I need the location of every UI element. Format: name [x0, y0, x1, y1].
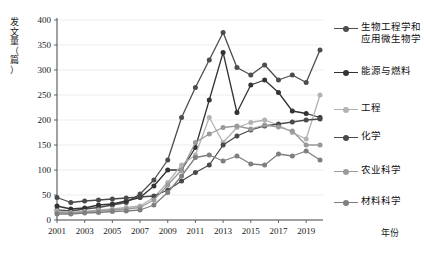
data-point — [234, 65, 239, 70]
data-point — [290, 154, 295, 159]
data-point — [248, 127, 253, 132]
data-point — [262, 63, 267, 68]
data-point — [290, 129, 295, 134]
data-point — [179, 115, 184, 120]
data-point — [207, 153, 212, 158]
data-point — [55, 195, 60, 200]
data-point — [304, 149, 309, 154]
data-point — [248, 83, 253, 88]
data-point — [290, 120, 295, 125]
y-axis-tick-label: 150 — [38, 140, 52, 150]
data-point — [304, 80, 309, 85]
data-point — [138, 195, 143, 200]
data-point — [276, 125, 281, 130]
x-axis-title: 年份 — [381, 229, 399, 239]
data-point — [276, 152, 281, 157]
x-axis-tick-label: 2019 — [297, 226, 316, 236]
y-axis-title: 发 文 量 （ 篇 ） — [8, 18, 20, 75]
legend-marker-icon — [334, 133, 358, 142]
legend-chemistry[interactable]: 化学 — [334, 131, 381, 143]
data-point — [262, 78, 267, 83]
data-point — [96, 210, 101, 215]
x-axis-tick-label: 2003 — [76, 226, 95, 236]
data-point — [318, 158, 323, 163]
data-point — [165, 168, 170, 173]
data-point — [124, 196, 129, 201]
y-axis-tick-label: 100 — [38, 165, 52, 175]
x-axis-tick-label: 2011 — [187, 226, 205, 236]
data-point — [248, 73, 253, 78]
data-point — [207, 163, 212, 168]
data-point — [234, 134, 239, 139]
y-axis-tick-label: 250 — [38, 90, 52, 100]
data-point — [262, 118, 267, 123]
data-point — [165, 183, 170, 188]
legend-label: 工程 — [361, 103, 381, 115]
y-axis-tick-label: 350 — [38, 40, 52, 50]
data-point — [110, 197, 115, 202]
data-point — [165, 158, 170, 163]
data-point — [221, 30, 226, 35]
data-point — [290, 73, 295, 78]
x-axis-tick-label: 2013 — [214, 226, 233, 236]
data-point — [179, 174, 184, 179]
data-point — [234, 154, 239, 159]
data-point — [110, 202, 115, 207]
legend-engineering[interactable]: 工程 — [334, 103, 381, 115]
data-point — [276, 90, 281, 95]
data-point — [290, 109, 295, 114]
data-point — [207, 115, 212, 120]
legend-energy-fuel[interactable]: 能源与燃料 — [334, 66, 411, 78]
data-point — [82, 211, 87, 216]
data-point — [221, 50, 226, 55]
legend-materials[interactable]: 材料科学 — [334, 196, 401, 208]
data-point — [262, 163, 267, 168]
legend-label: 能源与燃料 — [361, 66, 411, 78]
legend-marker-icon — [334, 68, 358, 77]
x-axis-tick-label: 2017 — [269, 226, 288, 236]
y-axis-tick-label: 0 — [47, 215, 52, 225]
y-axis-tick-label: 200 — [38, 115, 52, 125]
y-axis-tick-label: 300 — [38, 65, 52, 75]
data-point — [207, 132, 212, 137]
data-point — [110, 209, 115, 214]
legend-marker-icon — [334, 198, 358, 207]
x-axis-tick-label: 2005 — [103, 226, 122, 236]
publication-trend-chart: 发 文 量 （ 篇 ） 年份 0501001502002503003504002… — [0, 0, 424, 266]
data-point — [318, 117, 323, 122]
data-point — [207, 98, 212, 103]
data-point — [221, 125, 226, 130]
data-point — [221, 143, 226, 148]
data-point — [318, 143, 323, 148]
data-point — [82, 199, 87, 204]
legend-label: 生物工程学和应用微生物学 — [361, 22, 421, 45]
data-point — [207, 58, 212, 63]
data-point — [151, 203, 156, 208]
data-point — [138, 208, 143, 213]
data-point — [234, 110, 239, 115]
data-point — [179, 168, 184, 173]
data-point — [55, 204, 60, 209]
data-point — [165, 190, 170, 195]
y-axis-title-char: ） — [8, 66, 20, 76]
data-point — [68, 212, 73, 217]
data-point — [96, 203, 101, 208]
data-point — [96, 198, 101, 203]
y-axis-tick-label: 50 — [42, 190, 52, 200]
data-point — [193, 140, 198, 145]
legend-label-line2: 应用微生物学 — [361, 34, 421, 46]
legend-marker-icon — [334, 105, 358, 114]
legend-bioengineering[interactable]: 生物工程学和应用微生物学 — [334, 22, 421, 45]
data-point — [304, 143, 309, 148]
data-point — [193, 170, 198, 175]
data-point — [124, 209, 129, 214]
data-point — [234, 124, 239, 129]
legend-label: 材料科学 — [361, 196, 401, 208]
data-point — [179, 179, 184, 184]
x-axis-tick-label: 2015 — [242, 226, 261, 236]
x-axis-tick-label: 2001 — [48, 226, 66, 236]
data-point — [248, 120, 253, 125]
data-point — [193, 85, 198, 90]
legend-agriculture[interactable]: 农业科学 — [334, 165, 401, 177]
x-axis-tick-label: 2009 — [159, 226, 178, 236]
